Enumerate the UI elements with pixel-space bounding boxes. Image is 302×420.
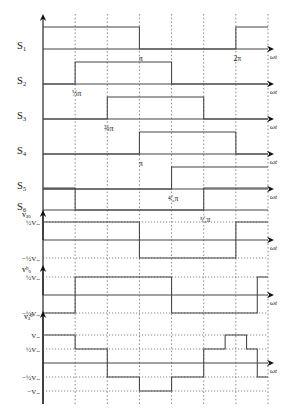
level-label-v: −½Vₑₑ xyxy=(22,374,40,382)
axis-label-v: ωt xyxy=(270,367,278,375)
axis-arrowhead-S xyxy=(267,81,274,87)
signal-label-v: vᵇₒ xyxy=(22,265,31,274)
axis-arrowhead-S xyxy=(267,46,274,52)
angle-annotation-3: π xyxy=(139,159,143,168)
level-label-v: ½Vₑₑ xyxy=(26,346,40,354)
signal-label-v: vₐₒ xyxy=(22,210,31,219)
angle-annotation-6: 2π xyxy=(234,54,242,63)
axis-label-S: ωt xyxy=(270,158,278,166)
waveform-svg: ωtS₁ωtS₂ωtS₃ωtS₄ωtS₅S₆ωt½Vₑₑ−½Vₑₑvₐₒωt½V… xyxy=(0,0,302,420)
level-label-v: ½Vₑₑ xyxy=(26,274,40,282)
waveform-S xyxy=(43,62,268,84)
level-label-v: −½Vₑₑ xyxy=(22,255,40,263)
signal-label-S: S₅ xyxy=(17,180,27,191)
waveform-S xyxy=(43,132,268,154)
axis-label-S: ωt xyxy=(270,88,278,96)
angle-annotation-2: π xyxy=(139,54,143,63)
waveform-S xyxy=(43,188,268,210)
waveform-S xyxy=(43,167,268,189)
axis-label-S: ωt xyxy=(270,53,278,61)
level-label-v: −Vₑₑ xyxy=(27,388,40,396)
waveform-figure: ωtS₁ωtS₂ωtS₃ωtS₄ωtS₅S₆ωt½Vₑₑ−½Vₑₑvₐₒωt½V… xyxy=(0,0,302,420)
axis-arrowhead-v xyxy=(267,292,274,298)
level-label-v: ½Vₑₑ xyxy=(26,219,40,227)
axis-label-v: ωt xyxy=(270,244,278,252)
signal-label-S: S₂ xyxy=(17,75,27,86)
angle-annotation-0: ⅓π xyxy=(72,89,82,98)
waveform-S xyxy=(43,97,268,119)
axis-label-S: ωt xyxy=(270,123,278,131)
signal-label-S: S₄ xyxy=(17,145,27,156)
signal-label-v: vₐᵇ xyxy=(24,312,33,321)
axis-label-S: ωt xyxy=(270,193,278,201)
axis-arrowhead-S xyxy=(267,151,274,157)
angle-annotation-4: ⁴⁄₃π xyxy=(168,194,178,203)
waveform-S xyxy=(43,27,268,49)
level-label-v: Vₑₑ xyxy=(31,332,40,340)
angle-annotation-1: ⅔π xyxy=(104,124,114,133)
axis-label-v: ωt xyxy=(270,299,278,307)
angle-annotation-5: ⁵⁄₃π xyxy=(200,215,210,224)
signal-label-S: S₁ xyxy=(17,40,27,51)
signal-label-S: S₃ xyxy=(17,110,27,121)
